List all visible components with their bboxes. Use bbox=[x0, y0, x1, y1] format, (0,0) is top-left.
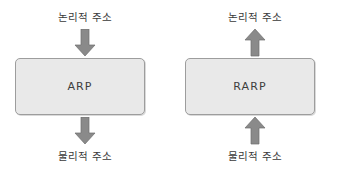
arrow-down-icon bbox=[70, 29, 100, 57]
arrow-up-icon bbox=[240, 29, 270, 57]
rarp-panel: 논리적 주소 RARP 물리적 주소 bbox=[170, 0, 340, 174]
arp-bottom-label: 물리적 주소 bbox=[0, 148, 170, 163]
rarp-box: RARP bbox=[185, 58, 315, 115]
rarp-bottom-label: 물리적 주소 bbox=[170, 148, 340, 163]
rarp-box-label: RARP bbox=[233, 80, 266, 93]
rarp-top-label: 논리적 주소 bbox=[170, 9, 340, 24]
arp-box: ARP bbox=[15, 58, 145, 115]
arp-top-label: 논리적 주소 bbox=[0, 9, 170, 24]
arp-box-label: ARP bbox=[67, 80, 92, 93]
arp-panel: 논리적 주소 ARP 물리적 주소 bbox=[0, 0, 170, 174]
arrow-up-icon bbox=[240, 117, 270, 145]
arrow-down-icon bbox=[70, 117, 100, 145]
arp-rarp-diagram: 논리적 주소 ARP 물리적 주소 논리적 주소 RARP bbox=[0, 0, 340, 174]
